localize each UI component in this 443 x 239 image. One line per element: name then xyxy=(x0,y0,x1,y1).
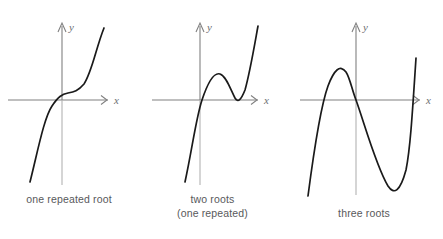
y-axis-label: y xyxy=(362,21,368,33)
graph-one-repeated-root: x y xyxy=(0,0,140,192)
caption-line-1: two roots xyxy=(145,192,280,206)
y-axis-label: y xyxy=(206,21,212,33)
cubic-curve xyxy=(185,26,258,182)
cubic-curve xyxy=(308,58,416,196)
caption-line-1: one repeated root xyxy=(26,193,111,205)
x-axis-label: x xyxy=(263,94,269,106)
caption-line-2: (one repeated) xyxy=(145,206,280,220)
graph-two-roots-one-repeated: x y xyxy=(145,0,285,192)
panel-caption: two roots (one repeated) xyxy=(145,192,280,220)
x-axis-label: x xyxy=(425,94,431,106)
panel-two-roots-one-repeated: x y two roots (one repeated) xyxy=(145,0,285,239)
y-axis-label: y xyxy=(68,21,74,33)
panel-three-roots: x y three roots xyxy=(295,0,443,239)
x-axis-label: x xyxy=(113,94,119,106)
graph-three-roots: x y xyxy=(295,0,443,202)
panel-caption: one repeated root xyxy=(0,192,138,206)
panel-one-repeated-root: x y one repeated root xyxy=(0,0,140,239)
cubic-curve xyxy=(30,28,104,182)
panel-caption: three roots xyxy=(300,206,428,220)
caption-line-1: three roots xyxy=(338,207,390,219)
cubic-roots-figure: x y one repeated root x y two roots (one… xyxy=(0,0,443,239)
